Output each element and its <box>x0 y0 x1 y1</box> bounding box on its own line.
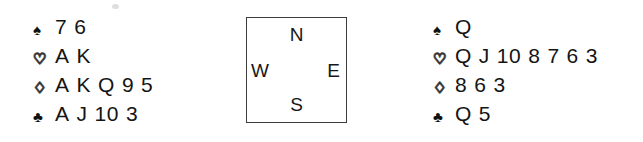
card-rank: 10 <box>497 41 521 70</box>
card-rank: J <box>77 99 88 128</box>
card-rank: 10 <box>95 99 119 128</box>
card-rank: Q <box>455 12 472 41</box>
card-rank: 6 <box>567 41 579 70</box>
card-rank: 6 <box>74 12 86 41</box>
suit-row-west-diamonds: ♢ AKQ95 <box>33 70 153 99</box>
suit-cards-west-hearts: AK <box>55 41 91 70</box>
suit-cards-west-clubs: AJ103 <box>55 99 138 128</box>
card-rank: K <box>77 70 92 99</box>
club-icon: ♣ <box>33 109 55 124</box>
hand-east: ♠ Q ♡ QJ108763 ♢ 863 ♣ Q5 <box>433 12 598 128</box>
compass-label-east: E <box>327 61 340 80</box>
suit-row-east-diamonds: ♢ 863 <box>433 70 598 99</box>
card-rank: 7 <box>55 12 67 41</box>
card-rank: K <box>77 41 92 70</box>
suit-row-east-clubs: ♣ Q5 <box>433 99 598 128</box>
suit-row-east-hearts: ♡ QJ108763 <box>433 41 598 70</box>
compass-label-west: W <box>251 61 269 80</box>
diamond-icon: ♢ <box>33 80 55 95</box>
spade-icon: ♠ <box>33 22 55 37</box>
suit-cards-west-diamonds: AKQ95 <box>55 70 153 99</box>
card-rank: Q <box>455 99 472 128</box>
compass-box: N W E S <box>246 17 347 123</box>
compass-label-north: N <box>247 25 346 44</box>
suit-cards-east-diamonds: 863 <box>455 70 506 99</box>
club-icon: ♣ <box>433 109 455 124</box>
hand-west: ♠ 76 ♡ AK ♢ AKQ95 ♣ AJ103 <box>33 12 153 128</box>
suit-cards-east-hearts: QJ108763 <box>455 41 598 70</box>
scan-artifact-speck <box>112 4 119 9</box>
card-rank: 3 <box>493 70 505 99</box>
card-rank: 7 <box>547 41 559 70</box>
card-rank: 8 <box>528 41 540 70</box>
heart-icon: ♡ <box>33 51 55 66</box>
card-rank: A <box>55 99 70 128</box>
suit-row-east-spades: ♠ Q <box>433 12 598 41</box>
card-rank: 6 <box>474 70 486 99</box>
card-rank: 3 <box>586 41 598 70</box>
spade-icon: ♠ <box>433 22 455 37</box>
card-rank: Q <box>98 70 115 99</box>
card-rank: Q <box>455 41 472 70</box>
card-rank: 5 <box>479 99 491 128</box>
card-rank: J <box>479 41 490 70</box>
card-rank: 5 <box>141 70 153 99</box>
card-rank: 9 <box>122 70 134 99</box>
bridge-hand-diagram: ♠ 76 ♡ AK ♢ AKQ95 ♣ AJ103 N W E S ♠ Q ♡ … <box>0 0 643 142</box>
suit-cards-east-clubs: Q5 <box>455 99 491 128</box>
suit-row-west-hearts: ♡ AK <box>33 41 153 70</box>
diamond-icon: ♢ <box>433 80 455 95</box>
card-rank: A <box>55 70 70 99</box>
card-rank: 3 <box>126 99 138 128</box>
suit-row-west-clubs: ♣ AJ103 <box>33 99 153 128</box>
suit-row-west-spades: ♠ 76 <box>33 12 153 41</box>
card-rank: 8 <box>455 70 467 99</box>
suit-cards-west-spades: 76 <box>55 12 86 41</box>
heart-icon: ♡ <box>433 51 455 66</box>
card-rank: A <box>55 41 70 70</box>
suit-cards-east-spades: Q <box>455 12 472 41</box>
compass-label-south: S <box>247 95 346 114</box>
